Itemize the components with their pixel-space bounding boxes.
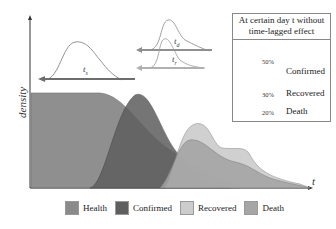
inset-label-recovered: Recovered [286,88,324,98]
legend-swatch-recovered [180,201,194,215]
legend-swatch-health [65,201,79,215]
legend-item-death: Death [244,201,284,215]
legend-item-health: Health [65,201,107,215]
lag-label-r: tr [172,54,177,66]
lag-arrow-r-head-icon [136,65,142,71]
lag-label-s: ts [83,64,88,76]
y-axis-label: density [16,87,28,118]
inset-box: At certain day t without time-lagged eff… [232,13,331,122]
bottom-legend: Health Confirmed Recovered Death [65,201,292,215]
time-lag-density-diagram: density t ts td tr At certain day t with… [0,0,336,229]
lag-arrow-d-head-icon [136,47,142,53]
inset-pct-death: 20% [257,104,279,120]
inset-title: At certain day t without time-lagged eff… [233,14,330,40]
y-axis-arrowhead-icon [28,15,32,20]
lag-label-d: td [174,36,180,48]
inset-pct-confirmed: 50% [257,38,279,84]
lag-arrow-s-head-icon [38,76,45,82]
inset-label-death: Death [286,106,308,116]
lag-curve-d [150,20,210,51]
legend-item-confirmed: Confirmed [115,201,172,215]
x-axis-label: t [312,175,315,187]
inset-label-confirmed: Confirmed [286,66,325,76]
legend-swatch-death [244,201,258,215]
legend-swatch-confirmed [115,201,129,215]
legend-item-recovered: Recovered [180,201,236,215]
inset-pct-recovered: 30% [257,84,279,104]
